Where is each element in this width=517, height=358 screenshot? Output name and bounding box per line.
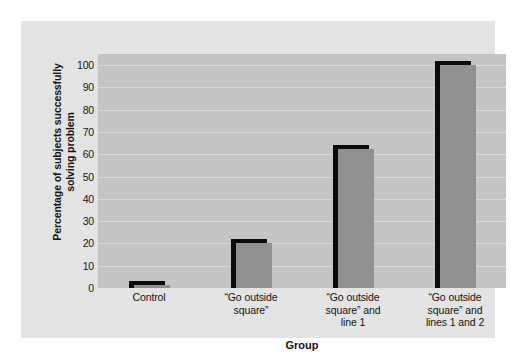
y-axis-tick-label: 90 (68, 82, 94, 92)
x-axis-tick-label: “Go outsidesquare” (200, 291, 302, 316)
x-axis-tick-label: “Go outsidesquare” andline 1 (302, 291, 404, 329)
bar-fill (440, 65, 476, 288)
y-axis-tick-label: 40 (68, 194, 94, 204)
x-axis-tick-label-line: “Go outside (200, 291, 302, 304)
y-axis-tick-label: 20 (68, 238, 94, 248)
bar (435, 61, 476, 288)
plot-area (98, 54, 506, 288)
y-axis-tick-label: 10 (68, 261, 94, 271)
y-axis-tick-label: 100 (68, 60, 94, 70)
bar-fill (236, 243, 272, 288)
bar (333, 145, 374, 288)
bar-edge-left (333, 145, 338, 288)
x-axis-tick-label-line: “Go outside (404, 291, 506, 304)
y-axis-tick-label: 50 (68, 172, 94, 182)
bar-edge-top (129, 281, 165, 285)
x-axis-tick-label-line: lines 1 and 2 (404, 316, 506, 329)
y-axis-tick-label: 70 (68, 127, 94, 137)
figure-panel: Percentage of subjects successfully solv… (21, 21, 495, 338)
chart-figure: Percentage of subjects successfully solv… (0, 0, 517, 358)
bar-edge-top (231, 239, 267, 243)
bar-fill (134, 285, 170, 288)
bar-edge-left (231, 239, 236, 288)
y-axis-tick-labels: 0102030405060708090100 (64, 54, 94, 288)
x-axis-tick-label-line: square” (200, 304, 302, 317)
x-axis-tick-label-line: square” and (302, 304, 404, 317)
x-axis-tick-labels: Control“Go outsidesquare”“Go outsidesqua… (98, 291, 506, 339)
x-axis-tick-label-line: “Go outside (302, 291, 404, 304)
y-axis-tick-label: 60 (68, 149, 94, 159)
bar-fill (338, 149, 374, 288)
bar (129, 281, 170, 288)
x-axis-tick-label: Control (98, 291, 200, 304)
bar-edge-top (435, 61, 471, 65)
x-axis-tick-label: “Go outsidesquare” andlines 1 and 2 (404, 291, 506, 329)
y-axis-tick-label: 30 (68, 216, 94, 226)
bar-edge-left (435, 61, 440, 288)
bar (231, 239, 272, 288)
x-axis-title: Group (98, 339, 506, 351)
y-axis-tick-label: 0 (68, 283, 94, 293)
x-axis-tick-label-line: Control (98, 291, 200, 304)
x-axis-tick-label-line: line 1 (302, 316, 404, 329)
x-axis-tick-label-line: square” and (404, 304, 506, 317)
bar-edge-top (333, 145, 369, 149)
y-axis-tick-label: 80 (68, 105, 94, 115)
